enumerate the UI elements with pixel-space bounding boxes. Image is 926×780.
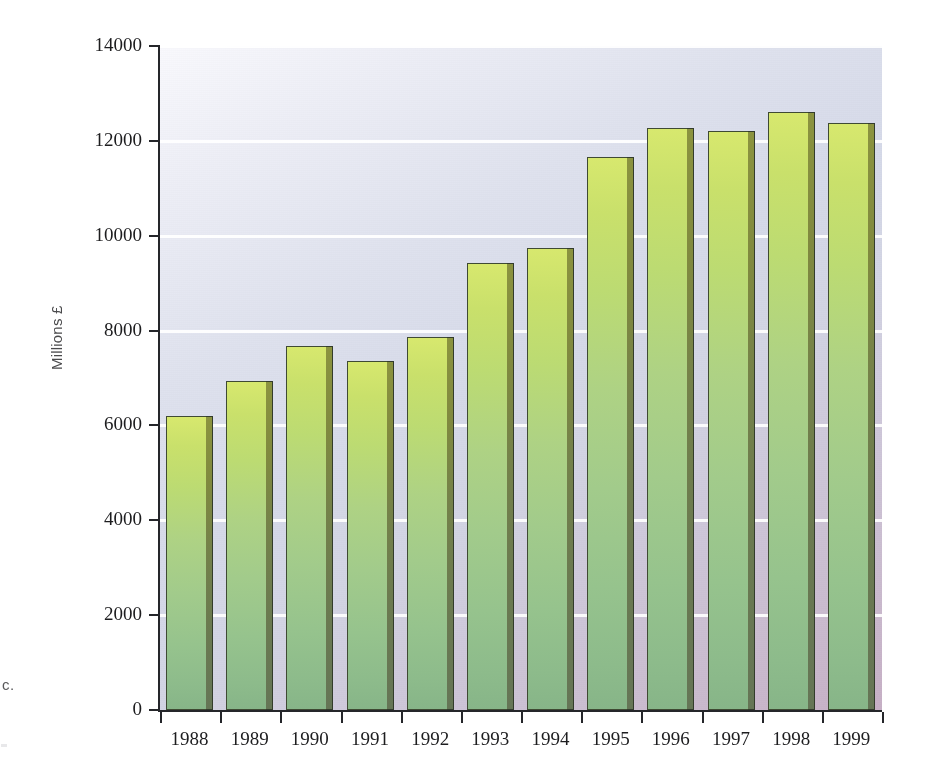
- x-axis-tick: [160, 712, 162, 723]
- y-axis-tick-label-wrap: 0: [0, 698, 142, 722]
- bar-1998: [768, 112, 815, 710]
- bar-face: [708, 131, 748, 710]
- x-axis-line: [158, 710, 882, 712]
- bar-side-shadow: [206, 416, 213, 710]
- bar-chart-figure: Millions £ 02000400060008000100001200014…: [0, 0, 926, 780]
- bar-side-shadow: [447, 337, 454, 710]
- bar-side-shadow: [266, 381, 273, 710]
- y-axis-tick-label: 2000: [52, 603, 142, 625]
- bar-1995: [587, 157, 634, 710]
- x-axis-tick: [702, 712, 704, 723]
- x-axis-tick: [882, 712, 884, 723]
- x-axis-tick: [521, 712, 523, 723]
- bar-face: [647, 128, 687, 710]
- bar-side-shadow: [868, 123, 875, 710]
- y-axis-tick-label-wrap: 6000: [0, 413, 142, 437]
- y-axis-tick-label-wrap: 2000: [0, 603, 142, 627]
- bar-1996: [647, 128, 694, 710]
- bar-side-shadow: [326, 346, 333, 710]
- x-axis-tick: [280, 712, 282, 723]
- y-axis-tick-label: 10000: [52, 224, 142, 246]
- bar-1994: [527, 248, 574, 710]
- x-axis-tick: [220, 712, 222, 723]
- bar-side-shadow: [687, 128, 694, 710]
- y-axis-tick-label: 12000: [52, 129, 142, 151]
- bar-side-shadow: [507, 263, 514, 710]
- bar-side-shadow: [387, 361, 394, 710]
- y-axis-tick-label-wrap: 14000: [0, 34, 142, 58]
- bar-1991: [347, 361, 394, 710]
- y-axis-tick-label: 14000: [52, 34, 142, 56]
- x-axis-tick: [341, 712, 343, 723]
- bar-1993: [467, 263, 514, 710]
- x-axis-tick: [822, 712, 824, 723]
- bar-face: [527, 248, 567, 710]
- y-axis-tick: [149, 519, 158, 521]
- y-axis-tick-label-wrap: 4000: [0, 508, 142, 532]
- bar-side-shadow: [627, 157, 634, 710]
- y-axis-tick-label: 6000: [52, 413, 142, 435]
- bar-1999: [828, 123, 875, 710]
- y-axis-tick-label: 4000: [52, 508, 142, 530]
- bar-face: [407, 337, 447, 710]
- y-axis-tick: [149, 330, 158, 332]
- y-axis-tick: [149, 614, 158, 616]
- y-axis-tick: [149, 424, 158, 426]
- bar-1997: [708, 131, 755, 710]
- bar-1992: [407, 337, 454, 710]
- y-axis-tick: [149, 45, 158, 47]
- x-axis-tick: [461, 712, 463, 723]
- y-axis-tick-label-wrap: 8000: [0, 319, 142, 343]
- bar-face: [286, 346, 326, 710]
- bar-face: [226, 381, 266, 710]
- bar-face: [166, 416, 206, 710]
- bar-side-shadow: [748, 131, 755, 710]
- bar-face: [347, 361, 387, 710]
- y-axis-line: [158, 45, 160, 712]
- x-axis-tick: [401, 712, 403, 723]
- bar-face: [467, 263, 507, 710]
- bar-face: [587, 157, 627, 710]
- y-axis-tick-label-wrap: 10000: [0, 224, 142, 248]
- bar-1990: [286, 346, 333, 710]
- bar-face: [828, 123, 868, 710]
- bar-side-shadow: [808, 112, 815, 710]
- x-axis-tick-label: 1999: [811, 728, 891, 750]
- y-axis-tick-label: 0: [52, 698, 142, 720]
- x-axis-tick: [581, 712, 583, 723]
- y-axis-tick-label-wrap: 12000: [0, 129, 142, 153]
- x-axis-tick: [762, 712, 764, 723]
- bar-side-shadow: [567, 248, 574, 710]
- bar-1988: [166, 416, 213, 710]
- bar-face: [768, 112, 808, 710]
- gridline: [160, 45, 882, 48]
- y-axis-tick: [149, 709, 158, 711]
- plot-area: [160, 46, 882, 710]
- y-axis-tick: [149, 235, 158, 237]
- y-axis-tick-label: 8000: [52, 319, 142, 341]
- y-axis-tick: [149, 140, 158, 142]
- bar-1989: [226, 381, 273, 710]
- x-axis-tick: [641, 712, 643, 723]
